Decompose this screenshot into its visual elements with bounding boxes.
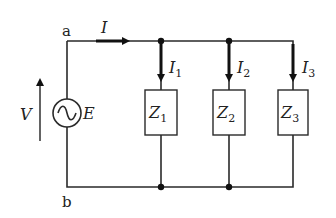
node-a-label: a xyxy=(62,22,71,40)
junction-dot xyxy=(158,184,164,190)
branch-2-current-label: I2 xyxy=(236,58,250,80)
junction-dot xyxy=(226,184,232,190)
node-b-label: b xyxy=(62,193,72,211)
bottom-wire xyxy=(67,127,293,187)
junction-dot xyxy=(226,38,232,44)
voltage-label: V xyxy=(20,105,33,124)
source-label: E xyxy=(82,104,95,123)
branch-1-current-label: I1 xyxy=(168,58,182,80)
circuit-diagram: a b I E V I1 I2 I3 Z1 Z2 Z3 xyxy=(0,0,336,218)
main-current-label: I xyxy=(100,18,108,37)
ac-source-icon xyxy=(53,99,81,127)
branch-3-current-label: I3 xyxy=(301,58,315,80)
junction-dot xyxy=(158,38,164,44)
wires xyxy=(67,41,293,187)
top-wire xyxy=(67,41,293,90)
